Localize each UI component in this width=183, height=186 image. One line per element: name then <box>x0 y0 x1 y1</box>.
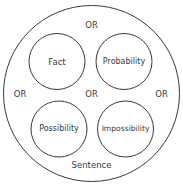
or-label-right: OR <box>155 90 168 99</box>
label-impossibility: Impossibility <box>102 125 150 133</box>
or-label-center: OR <box>85 90 98 99</box>
label-probability: Probability <box>103 58 145 66</box>
or-label-left: OR <box>14 90 27 99</box>
label-sentence: Sentence <box>72 160 112 169</box>
label-possibility: Possibility <box>39 125 79 133</box>
or-label-top: OR <box>85 21 98 30</box>
label-fact: Fact <box>48 57 65 66</box>
